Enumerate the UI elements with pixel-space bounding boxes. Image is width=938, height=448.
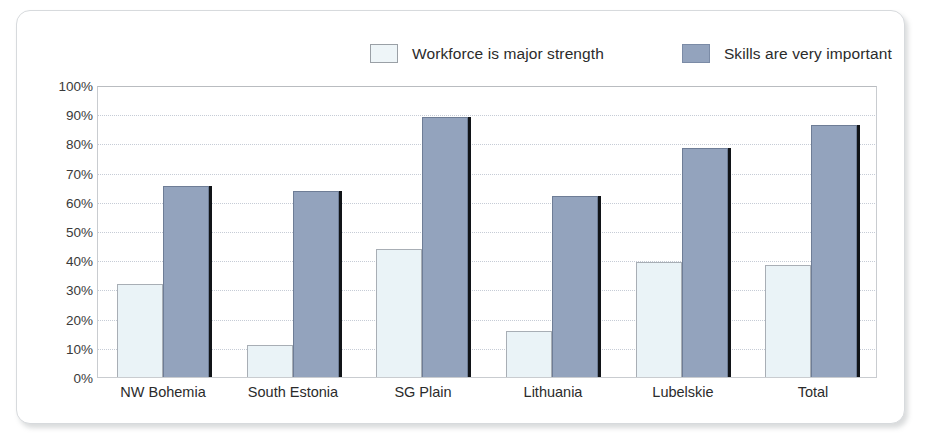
bar-skills[interactable] [811,125,857,377]
bar-workforce[interactable] [247,345,293,377]
x-axis-label: Total [748,384,878,400]
y-axis-tick-label: 30% [33,283,93,298]
y-axis-tick-label: 90% [33,108,93,123]
x-axis-label: South Estonia [228,384,358,400]
bar-group [98,87,228,377]
bar-skills[interactable] [552,196,598,377]
y-axis-tick-label: 40% [33,254,93,269]
x-axis-label: SG Plain [358,384,488,400]
legend-item-skills: Skills are very important [682,44,892,63]
bar-skills[interactable] [682,148,728,377]
x-axis-label: Lithuania [488,384,618,400]
x-axis-label: NW Bohemia [98,384,228,400]
y-axis-tick-label: 60% [33,195,93,210]
legend-item-workforce: Workforce is major strength [370,44,604,63]
bar-workforce[interactable] [117,284,163,377]
bar-workforce[interactable] [765,265,811,377]
legend-label-workforce: Workforce is major strength [412,45,604,63]
chart-legend: Workforce is major strength Skills are v… [370,44,892,63]
bar-group [487,87,617,377]
bar-workforce[interactable] [506,331,552,377]
bar-group [228,87,358,377]
y-axis-tick-label: 100% [33,79,93,94]
y-axis-tick-label: 50% [33,225,93,240]
bar-skills[interactable] [163,186,209,377]
x-axis-label: Lubelskie [618,384,748,400]
chart-page: Workforce is major strength Skills are v… [0,0,938,448]
bar-group [617,87,747,377]
plot-wrap: 100%90%80%70%60%50%40%30%20%10%0% [97,86,877,378]
bar-group [746,87,876,377]
y-axis-tick-label: 20% [33,312,93,327]
bar-workforce[interactable] [376,249,422,377]
x-axis-labels: NW BohemiaSouth EstoniaSG PlainLithuania… [98,384,878,400]
bar-skills[interactable] [422,117,468,377]
y-axis-tick-label: 80% [33,137,93,152]
y-axis-tick-label: 10% [33,341,93,356]
legend-swatch-dark [682,44,710,63]
legend-label-skills: Skills are very important [724,45,892,63]
legend-swatch-light [370,44,398,63]
bar-skills[interactable] [293,191,339,377]
bar-groups [98,87,876,377]
bar-workforce[interactable] [636,262,682,377]
bar-group [357,87,487,377]
y-axis-tick-label: 0% [33,371,93,386]
y-axis-tick-label: 70% [33,166,93,181]
